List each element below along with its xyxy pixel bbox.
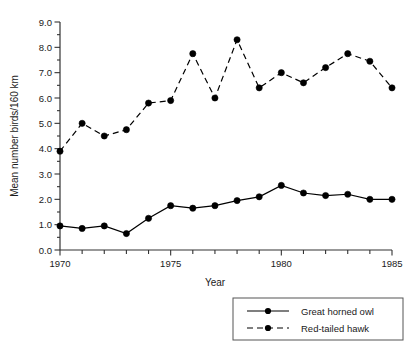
data-point (345, 191, 351, 197)
data-point (256, 85, 262, 91)
y-tick-label: 0.0 (39, 245, 52, 256)
series-line (60, 185, 392, 233)
data-point (367, 58, 373, 64)
data-point (367, 196, 373, 202)
data-point (145, 100, 151, 106)
axes-group (60, 22, 392, 250)
y-tick-label: 3.0 (39, 169, 52, 180)
data-point (101, 133, 107, 139)
y-tick-label: 1.0 (39, 219, 52, 230)
data-point (212, 95, 218, 101)
y-tick-label: 5.0 (39, 118, 52, 129)
legend-marker (265, 308, 271, 314)
data-point (389, 196, 395, 202)
chart-svg: 0.01.02.03.04.05.06.07.08.09.01970197519… (0, 0, 412, 342)
data-point (168, 97, 174, 103)
legend-box (233, 298, 403, 340)
y-tick-label: 8.0 (39, 42, 52, 53)
data-point (79, 225, 85, 231)
data-point (190, 51, 196, 57)
data-point (101, 223, 107, 229)
legend-marker (265, 325, 271, 331)
x-tick-label: 1985 (381, 258, 402, 269)
x-tick-group: 1970197519801985 (49, 250, 402, 269)
data-point (300, 80, 306, 86)
data-point (300, 190, 306, 196)
y-tick-label: 2.0 (39, 194, 52, 205)
data-point (190, 205, 196, 211)
y-tick-group: 0.01.02.03.04.05.06.07.08.09.0 (39, 17, 60, 256)
data-point (256, 194, 262, 200)
data-point (278, 182, 284, 188)
data-point (278, 70, 284, 76)
data-point (123, 230, 129, 236)
data-point (323, 192, 329, 198)
y-tick-label: 9.0 (39, 17, 52, 28)
y-axis-title: Mean number birds/160 km (9, 75, 20, 197)
y-tick-label: 7.0 (39, 67, 52, 78)
series-line (60, 40, 392, 151)
series-red-tailed-hawk (57, 37, 395, 155)
series-great-horned-owl (57, 182, 395, 236)
data-point (234, 198, 240, 204)
data-point (234, 37, 240, 43)
data-point (389, 85, 395, 91)
y-tick-label: 4.0 (39, 143, 52, 154)
data-point (57, 223, 63, 229)
data-point (79, 120, 85, 126)
data-point (168, 203, 174, 209)
x-tick-label: 1975 (160, 258, 181, 269)
y-tick-label: 6.0 (39, 93, 52, 104)
bird-population-line-chart: 0.01.02.03.04.05.06.07.08.09.01970197519… (0, 0, 412, 342)
data-point (57, 148, 63, 154)
data-point (323, 65, 329, 71)
x-axis-title: Year (205, 277, 226, 288)
data-point (123, 127, 129, 133)
data-point (345, 51, 351, 57)
legend-label: Red-tailed hawk (301, 323, 369, 334)
x-tick-label: 1980 (271, 258, 292, 269)
x-tick-label: 1970 (49, 258, 70, 269)
data-point (212, 203, 218, 209)
legend-label: Great horned owl (301, 306, 374, 317)
legend: Great horned owlRed-tailed hawk (233, 298, 403, 340)
data-point (145, 215, 151, 221)
